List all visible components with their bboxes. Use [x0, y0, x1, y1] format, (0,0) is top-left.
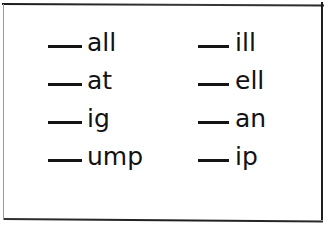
word-ending-label: ump — [87, 144, 143, 169]
answer-blank[interactable] — [48, 45, 82, 48]
answer-blank[interactable] — [198, 83, 229, 86]
prompt-column-left: all at ig ump — [48, 30, 143, 182]
answer-blank[interactable] — [198, 159, 229, 162]
prompt-row[interactable]: ump — [48, 144, 143, 182]
word-ending-label: ip — [235, 144, 258, 169]
prompt-row[interactable]: ell — [198, 68, 266, 106]
prompt-row[interactable]: ig — [48, 106, 143, 144]
word-ending-label: an — [235, 106, 266, 131]
prompt-grid: all at ig ump ill ell — [0, 0, 329, 225]
word-ending-label: ig — [87, 106, 110, 131]
worksheet-page: all at ig ump ill ell — [0, 0, 329, 225]
answer-blank[interactable] — [48, 121, 82, 124]
answer-blank[interactable] — [48, 83, 82, 86]
prompt-row[interactable]: ill — [198, 30, 266, 68]
prompt-column-right: ill ell an ip — [198, 30, 266, 182]
prompt-row[interactable]: at — [48, 68, 143, 106]
word-ending-label: ell — [235, 68, 264, 93]
prompt-row[interactable]: an — [198, 106, 266, 144]
word-ending-label: ill — [235, 30, 256, 55]
answer-blank[interactable] — [48, 159, 82, 162]
answer-blank[interactable] — [198, 45, 229, 48]
word-ending-label: at — [87, 68, 112, 93]
prompt-row[interactable]: ip — [198, 144, 266, 182]
prompt-row[interactable]: all — [48, 30, 143, 68]
word-ending-label: all — [87, 30, 116, 55]
answer-blank[interactable] — [198, 121, 229, 124]
